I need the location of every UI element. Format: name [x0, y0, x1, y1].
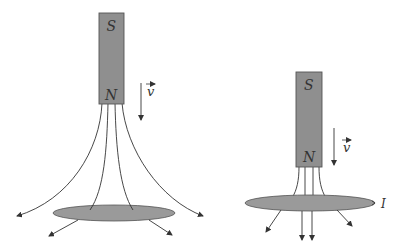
induced-current-label: I — [380, 197, 386, 211]
left-magnet-south-pole: S — [107, 18, 117, 34]
left-velocity-label: v — [147, 84, 155, 99]
left-panel: S N v — [17, 13, 203, 236]
right-conducting-ring — [245, 195, 375, 211]
right-field-lines-lower — [266, 210, 352, 240]
right-magnet-south-pole: S — [304, 77, 314, 93]
diagram-canvas: S N v S N v I — [0, 0, 395, 249]
right-panel: S N v I — [245, 72, 386, 240]
right-field-lines-upper — [292, 167, 326, 198]
left-magnet-north-pole: N — [104, 87, 118, 103]
right-magnet-north-pole: N — [302, 149, 316, 165]
right-velocity-label: v — [343, 140, 351, 155]
left-conducting-ring — [53, 205, 175, 221]
